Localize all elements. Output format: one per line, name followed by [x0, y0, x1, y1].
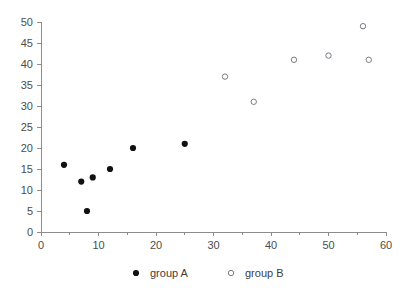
y-axis: 05101520253035404550 — [21, 16, 41, 238]
data-point — [251, 99, 256, 104]
x-tick-label: 20 — [150, 239, 162, 251]
data-point — [84, 208, 90, 214]
series-group-a-points — [61, 141, 188, 214]
y-tick-label: 5 — [27, 205, 33, 217]
data-point — [90, 174, 96, 180]
data-point — [61, 162, 67, 168]
y-tick-label: 30 — [21, 100, 33, 112]
legend: group Agroup B — [133, 267, 284, 279]
legend-label: group A — [150, 267, 189, 279]
y-tick-label: 0 — [27, 226, 33, 238]
data-point — [366, 57, 371, 62]
x-tick-label: 40 — [265, 239, 277, 251]
legend-marker-filled-circle-icon — [133, 270, 139, 276]
legend-marker-open-circle-icon — [228, 270, 233, 275]
x-axis: 0102030405060 — [38, 232, 392, 251]
y-tick-label: 20 — [21, 142, 33, 154]
data-point — [360, 24, 365, 29]
y-tick-label: 45 — [21, 37, 33, 49]
series-group-b-points — [222, 24, 371, 105]
y-tick-label: 50 — [21, 16, 33, 28]
scatter-plot-figure: 05101520253035404550 0102030405060 group… — [0, 0, 411, 301]
x-tick-label: 50 — [322, 239, 334, 251]
data-point — [222, 74, 227, 79]
y-tick-label: 25 — [21, 121, 33, 133]
x-tick-label: 30 — [207, 239, 219, 251]
data-point — [78, 179, 84, 185]
x-tick-label: 60 — [380, 239, 392, 251]
legend-label: group B — [245, 267, 284, 279]
x-tick-label: 10 — [92, 239, 104, 251]
data-point — [130, 145, 136, 151]
data-point — [291, 57, 296, 62]
y-tick-label: 40 — [21, 58, 33, 70]
y-tick-label: 10 — [21, 184, 33, 196]
plot-canvas: 05101520253035404550 0102030405060 group… — [0, 0, 411, 301]
x-tick-label: 0 — [38, 239, 44, 251]
y-tick-label: 15 — [21, 163, 33, 175]
data-point — [182, 141, 188, 147]
data-point — [326, 53, 331, 58]
data-point — [107, 166, 113, 172]
y-tick-label: 35 — [21, 79, 33, 91]
